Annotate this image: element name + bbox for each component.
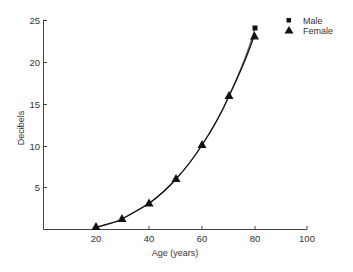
x-tick-label: 60 [197, 233, 208, 244]
female-point [225, 91, 234, 99]
female-point [145, 199, 154, 207]
legend: Male Female [285, 16, 334, 36]
female-point [118, 214, 127, 222]
x-axis-label: Age (years) [152, 248, 199, 258]
triangle-marker-icon [285, 26, 294, 34]
axes [44, 20, 308, 230]
square-marker-icon [287, 18, 292, 23]
y-tick-label: 20 [29, 57, 40, 68]
male-curve [96, 28, 255, 228]
x-tick-label: 100 [299, 233, 315, 244]
female-point [250, 32, 259, 40]
y-tick-labels: 25 20 15 10 5 [29, 15, 40, 193]
x-tick-labels: 20 40 60 80 100 [91, 233, 315, 244]
y-axis-label: Decibels [16, 110, 26, 145]
y-tick-label: 5 [35, 182, 40, 193]
male-point [253, 26, 258, 31]
x-tick-label: 80 [250, 233, 261, 244]
y-tick-label: 25 [29, 15, 40, 26]
x-tick-label: 40 [144, 233, 155, 244]
y-tick-label: 15 [29, 99, 40, 110]
legend-label: Male [303, 16, 323, 26]
legend-item-female: Female [285, 26, 334, 36]
y-tick-label: 10 [29, 141, 40, 152]
legend-item-male: Male [287, 16, 323, 26]
chart: 25 20 15 10 5 20 40 60 80 100 Age (years… [0, 0, 353, 272]
legend-label: Female [303, 26, 333, 36]
male-markers [253, 26, 258, 31]
female-markers [92, 32, 260, 231]
x-tick-label: 20 [91, 233, 102, 244]
female-curve [96, 36, 254, 228]
